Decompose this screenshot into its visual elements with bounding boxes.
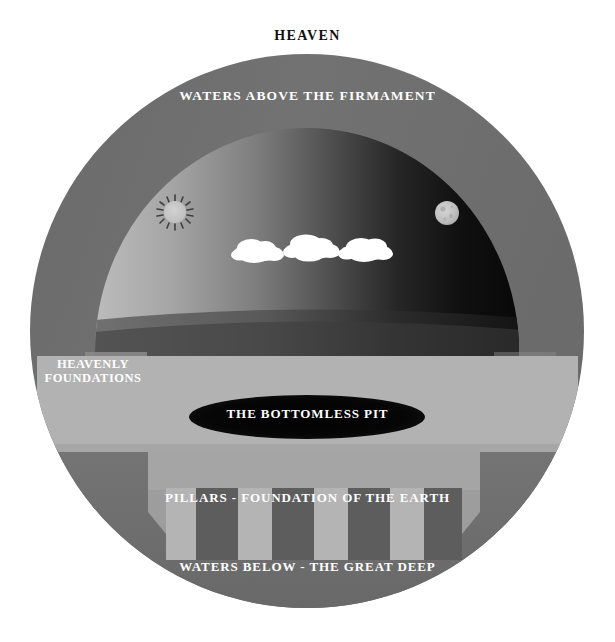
sun-disc (164, 201, 186, 223)
moon-disc (435, 201, 459, 225)
dome-floor-curve (95, 321, 522, 360)
moon-icon (435, 201, 459, 225)
cosmology-diagram: HEAVEN WATERS ABOVE THE FIRMAMENT HEAVEN… (0, 0, 615, 642)
pillars-foundation-group (148, 450, 480, 560)
bottomless-pit-group (189, 395, 425, 439)
pillars-block-top (148, 450, 480, 490)
cosmology-svg (0, 0, 615, 642)
bottomless-pit-ellipse (189, 395, 425, 439)
